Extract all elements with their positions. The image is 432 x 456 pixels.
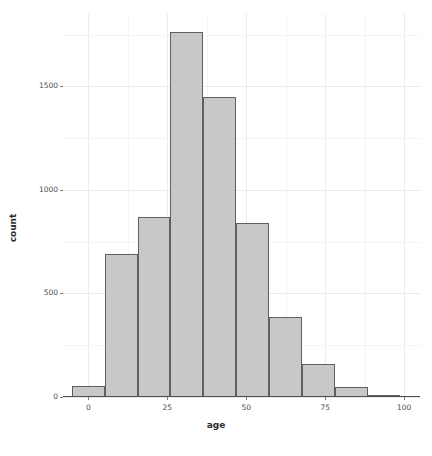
histogram-bar bbox=[269, 317, 302, 397]
x-axis-tick-labels: 0255075100 bbox=[0, 404, 432, 418]
gridline-vertical bbox=[325, 14, 326, 397]
y-axis-tick-mark bbox=[60, 190, 63, 191]
y-axis-tick-mark bbox=[60, 397, 63, 398]
histogram-bar bbox=[105, 254, 138, 397]
plot-panel bbox=[63, 14, 420, 397]
histogram-bar bbox=[170, 32, 203, 397]
gridline-horizontal bbox=[63, 86, 420, 87]
x-axis-tick-label: 50 bbox=[241, 404, 251, 412]
x-axis-tick-mark bbox=[404, 397, 405, 400]
x-axis-tick-mark bbox=[88, 397, 89, 400]
histogram-bar bbox=[203, 97, 236, 397]
y-axis-tick-labels: 050010001500 bbox=[0, 0, 58, 456]
gridline-vertical bbox=[88, 14, 89, 397]
gridline-horizontal bbox=[63, 190, 420, 191]
x-axis-title: age bbox=[0, 420, 432, 430]
y-axis-tick-mark bbox=[60, 293, 63, 294]
x-axis-tick-mark bbox=[325, 397, 326, 400]
y-axis-tick-label: 1500 bbox=[39, 83, 58, 91]
x-axis-line bbox=[63, 396, 420, 397]
histogram-figure: count 050010001500 0255075100 age bbox=[0, 0, 432, 456]
gridline-horizontal-minor bbox=[63, 35, 420, 36]
y-axis-tick-label: 1000 bbox=[39, 186, 58, 194]
y-axis-tick-label: 0 bbox=[53, 393, 58, 401]
y-axis-tick-label: 500 bbox=[44, 290, 58, 298]
histogram-bar bbox=[302, 364, 335, 397]
gridline-horizontal bbox=[63, 397, 420, 398]
x-axis-tick-mark bbox=[167, 397, 168, 400]
y-axis-tick-mark bbox=[60, 86, 63, 87]
gridline-vertical bbox=[404, 14, 405, 397]
x-axis-tick-label: 0 bbox=[86, 404, 91, 412]
x-axis-tick-label: 25 bbox=[162, 404, 172, 412]
histogram-bar bbox=[138, 217, 171, 397]
x-axis-tick-label: 100 bbox=[397, 404, 411, 412]
gridline-horizontal-minor bbox=[63, 138, 420, 139]
histogram-bar bbox=[236, 223, 269, 397]
x-axis-tick-mark bbox=[246, 397, 247, 400]
x-axis-tick-label: 75 bbox=[320, 404, 330, 412]
gridline-vertical-minor bbox=[365, 14, 366, 397]
